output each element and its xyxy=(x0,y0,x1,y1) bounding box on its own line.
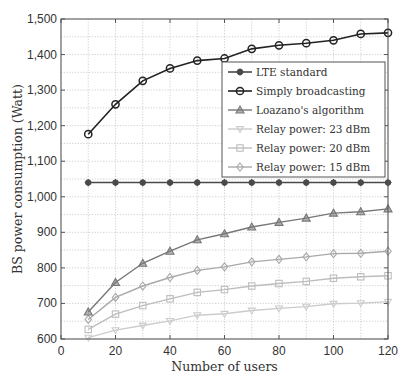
star-marker-icon xyxy=(194,179,201,186)
x-axis-label: Number of users xyxy=(171,359,278,374)
series-loazano-s-algorithm xyxy=(84,205,392,315)
star-marker-icon xyxy=(139,179,146,186)
star-marker-icon xyxy=(166,179,173,186)
line-chart: 020406080100120 6007008009001,0001,1001,… xyxy=(0,0,405,385)
x-tick-label: 60 xyxy=(218,344,232,358)
legend-label: Relay power: 15 dBm xyxy=(256,161,370,173)
y-tick-label: 600 xyxy=(37,332,57,346)
star-marker-icon xyxy=(248,179,255,186)
legend-label: Simply broadcasting xyxy=(256,85,366,97)
legend-label: Relay power: 20 dBm xyxy=(256,142,370,154)
series-line xyxy=(88,209,388,312)
x-tick-label: 40 xyxy=(163,344,177,358)
star-marker-icon xyxy=(303,179,310,186)
y-axis-tick-labels: 6007008009001,0001,1001,2001,3001,4001,5… xyxy=(27,12,57,346)
star-marker-icon xyxy=(85,179,92,186)
x-tick-label: 120 xyxy=(378,344,398,358)
series-line xyxy=(88,302,388,338)
star-marker-icon xyxy=(275,179,282,186)
star-marker-icon xyxy=(330,179,337,186)
y-tick-label: 1,200 xyxy=(27,119,57,133)
y-tick-label: 1,100 xyxy=(27,154,57,168)
legend-label: Loazano's algorithm xyxy=(256,104,364,116)
legend-label: LTE standard xyxy=(256,66,328,78)
star-marker-icon xyxy=(221,179,228,186)
y-tick-label: 1,400 xyxy=(27,48,57,62)
y-tick-label: 700 xyxy=(37,296,57,310)
y-tick-label: 1,000 xyxy=(27,190,57,204)
y-axis-label: BS power consumption (Watt) xyxy=(10,84,25,274)
y-tick-label: 800 xyxy=(37,261,57,275)
y-tick-label: 1,500 xyxy=(27,12,57,26)
y-tick-label: 1,300 xyxy=(27,83,57,97)
legend-box xyxy=(222,62,385,177)
x-axis-tick-labels: 020406080100120 xyxy=(58,344,399,358)
star-marker-icon xyxy=(112,179,119,186)
series-lte-standard xyxy=(85,179,392,186)
triangle-up-marker-icon xyxy=(112,278,120,285)
series-relay-power-20-dbm xyxy=(85,273,391,333)
legend: LTE standardSimply broadcastingLoazano's… xyxy=(222,62,385,177)
y-tick-label: 900 xyxy=(37,225,57,239)
x-tick-label: 80 xyxy=(272,344,286,358)
x-tick-label: 0 xyxy=(58,344,65,358)
series-relay-power-23-dbm xyxy=(85,299,392,341)
x-tick-label: 20 xyxy=(109,344,123,358)
legend-label: Relay power: 23 dBm xyxy=(256,123,370,135)
star-marker-icon xyxy=(357,179,364,186)
x-tick-label: 100 xyxy=(323,344,343,358)
